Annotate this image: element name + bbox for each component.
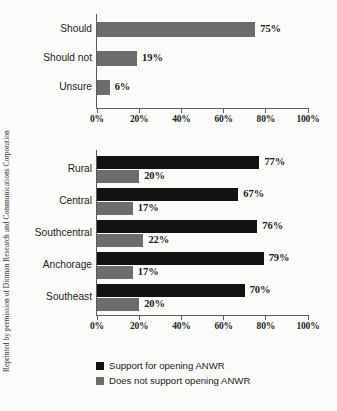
axis-tick (139, 108, 140, 113)
axis-tick-label: 80% (257, 114, 275, 124)
legend-label: Support for opening ANWR (109, 360, 225, 371)
axis-tick (181, 315, 182, 320)
legend-item-support: Support for opening ANWR (96, 358, 250, 373)
x-axis-line (97, 315, 309, 316)
bar-southcentral-support (97, 220, 257, 233)
legend-item-oppose: Does not support opening ANWR (96, 373, 250, 388)
axis-tick (265, 315, 266, 320)
bar-should-not (97, 51, 137, 66)
chart-legend: Support for opening ANWRDoes not support… (96, 358, 250, 388)
value-label: 17% (138, 202, 159, 213)
value-label: 19% (142, 52, 163, 63)
value-label: 22% (148, 234, 169, 245)
axis-tick (97, 108, 98, 113)
bar-anchorage-oppose (97, 266, 133, 279)
anwr-survey-figure: Reprinted by permission of Dittman Resea… (0, 0, 337, 411)
value-label: 6% (115, 81, 131, 92)
axis-tick (97, 315, 98, 320)
x-axis-line (97, 108, 309, 109)
value-label: 77% (264, 156, 285, 167)
axis-tick-label: 40% (172, 114, 190, 124)
axis-tick (265, 108, 266, 113)
axis-tick-label: 60% (214, 114, 232, 124)
category-label: Southeast (0, 291, 92, 302)
legend-swatch-oppose (96, 377, 104, 385)
bar-rural-oppose (97, 170, 139, 183)
bar-central-support (97, 188, 238, 201)
category-label: Should not (0, 52, 92, 63)
axis-tick (181, 108, 182, 113)
chart-by-region: 77%20%Rural67%17%Central76%22%Southcentr… (0, 148, 337, 344)
axis-tick-label: 60% (214, 321, 232, 331)
axis-tick-label: 20% (130, 114, 148, 124)
axis-tick-label: 0% (90, 114, 104, 124)
value-label: 20% (144, 170, 165, 181)
axis-tick-label: 100% (297, 321, 320, 331)
legend-swatch-support (96, 362, 104, 370)
value-label: 79% (269, 252, 290, 263)
category-label: Rural (0, 163, 92, 174)
category-label: Should (0, 23, 92, 34)
bar-southcentral-oppose (97, 234, 143, 247)
axis-tick (308, 315, 309, 320)
value-label: 67% (243, 188, 264, 199)
axis-tick (308, 108, 309, 113)
value-label: 70% (250, 284, 271, 295)
axis-tick (139, 315, 140, 320)
bar-anchorage-support (97, 252, 264, 265)
axis-tick-label: 80% (257, 321, 275, 331)
value-label: 75% (260, 23, 281, 34)
value-label: 20% (144, 298, 165, 309)
category-label: Anchorage (0, 259, 92, 270)
axis-tick (223, 108, 224, 113)
bar-southeast-oppose (97, 298, 139, 311)
axis-tick (223, 315, 224, 320)
category-label: Central (0, 195, 92, 206)
axis-tick-label: 20% (130, 321, 148, 331)
bar-southeast-support (97, 284, 245, 297)
axis-tick-label: 40% (172, 321, 190, 331)
category-label: Southcentral (0, 227, 92, 238)
bar-should (97, 22, 255, 37)
bar-unsure (97, 80, 110, 95)
axis-tick-label: 0% (90, 321, 104, 331)
category-label: Unsure (0, 81, 92, 92)
chart-statewide-opinion: Should75%Should not19%Unsure6%0%20%40%60… (0, 8, 337, 128)
axis-tick-label: 100% (297, 114, 320, 124)
value-label: 17% (138, 266, 159, 277)
bar-central-oppose (97, 202, 133, 215)
value-label: 76% (262, 220, 283, 231)
legend-label: Does not support opening ANWR (109, 375, 250, 386)
bar-rural-support (97, 156, 259, 169)
